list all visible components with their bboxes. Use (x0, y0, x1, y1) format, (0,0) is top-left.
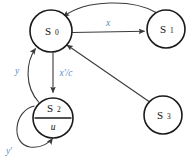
state-node-s0[interactable]: S 0 (30, 10, 72, 52)
state-subscript-s0: 0 (55, 28, 59, 37)
transition-s2-to-s0 (28, 49, 39, 103)
state-node-s3[interactable]: S 3 (144, 96, 182, 134)
transition-s0-to-s1 (72, 31, 144, 32)
state-node-s1[interactable]: S 1 (147, 10, 185, 48)
state-label-s0: S (45, 25, 51, 37)
state-diagram: S 0 S 1 S 2 u S 3 x x'/c y y' (0, 0, 196, 164)
edge-label-y-prime: y' (5, 146, 13, 156)
state-label-s1: S (160, 23, 166, 35)
edge-label-x: x (105, 18, 111, 28)
state-subscript-s2: 2 (57, 105, 61, 114)
state-diagram-canvas: S 0 S 1 S 2 u S 3 x x'/c y y' (0, 0, 196, 164)
transition-s1-to-s0 (64, 3, 157, 16)
edge-label-x-prime-c: x'/c (58, 68, 73, 78)
state-subscript-s1: 1 (170, 26, 174, 35)
state-label-s3: S (157, 109, 163, 121)
edge-label-y: y (14, 66, 20, 76)
state-subscript-s3: 3 (167, 112, 171, 121)
state-label-s2: S (47, 102, 53, 114)
transition-s3-to-s0 (67, 45, 149, 102)
state-node-s2[interactable]: S 2 u (33, 98, 73, 138)
state-output-s2: u (51, 122, 56, 132)
